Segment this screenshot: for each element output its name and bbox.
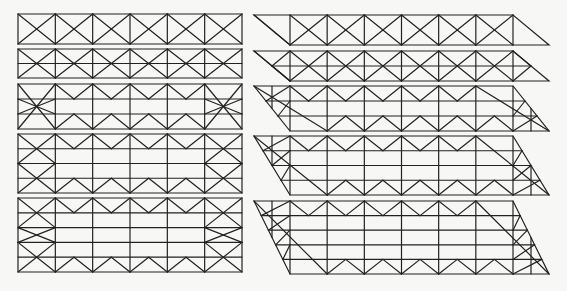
truss-panel-para-4 [254, 136, 549, 195]
diagram-svg [0, 0, 567, 291]
truss-panel-rect-5 [18, 198, 242, 272]
truss-panel-rect-2 [18, 49, 242, 78]
truss-panel-para-1 [254, 15, 549, 45]
truss-panel-rect-1 [18, 14, 242, 44]
truss-panel-rect-3 [18, 84, 242, 129]
truss-diagram-figure [0, 0, 567, 291]
truss-panel-para-5 [254, 201, 549, 274]
truss-panel-para-2 [254, 51, 549, 81]
truss-panel-rect-4 [18, 134, 242, 193]
truss-panel-para-3 [254, 86, 549, 131]
